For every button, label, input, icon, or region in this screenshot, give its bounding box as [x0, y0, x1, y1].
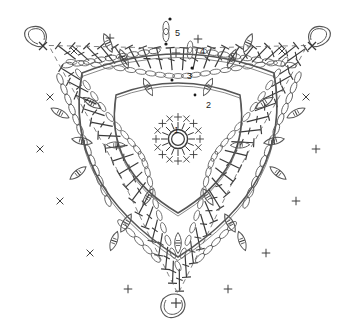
round-2-dot	[194, 94, 197, 97]
label-round-4: 4	[200, 46, 205, 56]
label-round-1: 1	[174, 125, 179, 135]
round-5-dot-top	[168, 17, 171, 20]
label-round-2: 2	[206, 100, 211, 110]
round-4-dot	[191, 67, 194, 70]
round-3-dot	[171, 79, 174, 82]
crochet-diagram: 1 2 3 4 5	[0, 0, 356, 334]
crochet-chart-root: 1 2 3 4 5	[0, 0, 356, 334]
label-round-5: 5	[175, 28, 180, 38]
round-5-dot-bottom	[164, 42, 167, 45]
label-round-3: 3	[187, 71, 192, 81]
